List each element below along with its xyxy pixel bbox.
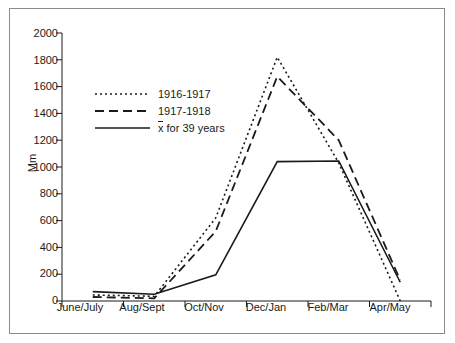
series-line-1917-1918 [93,77,401,299]
chart-frame: Mm 2000 1800 1600 1400 1200 1000 800 600… [9,8,445,334]
line-chart-plot [10,9,446,335]
x-axis-tick-marks [62,301,431,307]
series-line-1916-1917 [93,57,401,301]
series-line-mean-39-years [93,161,401,294]
y-axis-tick-marks [56,33,62,301]
